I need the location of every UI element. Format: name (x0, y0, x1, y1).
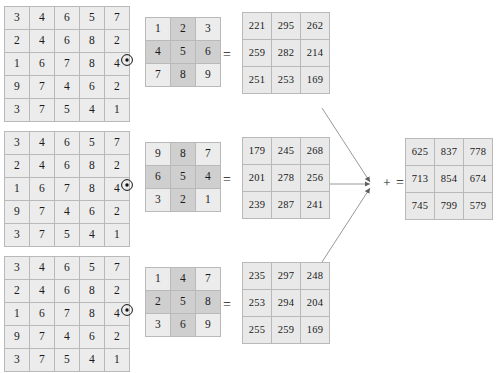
input-matrix-1: 3465724682167849746237541 (4, 6, 130, 122)
matrix-cell: 4 (80, 349, 104, 371)
matrix-cell: 4 (55, 201, 79, 223)
matrix-cell: 214 (301, 40, 329, 66)
matrix-cell: 1 (146, 18, 170, 40)
equals-sign-2: = (219, 172, 235, 188)
matrix-cell: 799 (435, 193, 463, 219)
matrix-cell: 4 (55, 76, 79, 98)
matrix-cell: 674 (464, 166, 492, 192)
matrix-cell: 9 (5, 76, 29, 98)
matrix-cell: 7 (196, 268, 220, 290)
matrix-cell: 1 (5, 303, 29, 325)
matrix-cell: 2 (105, 201, 129, 223)
matrix-cell: 8 (80, 155, 104, 177)
matrix-cell: 3 (5, 224, 29, 246)
matrix-cell: 6 (55, 257, 79, 279)
matrix-cell: 4 (171, 268, 195, 290)
matrix-cell: 1 (5, 178, 29, 200)
matrix-cell: 3 (5, 257, 29, 279)
matrix-cell: 7 (146, 64, 170, 86)
matrix-cell: 1 (105, 99, 129, 121)
equals-sign-1: = (219, 47, 235, 63)
matrix-cell: 7 (30, 76, 54, 98)
convolution-operator-icon (119, 52, 135, 68)
matrix-cell: 3 (5, 349, 29, 371)
matrix-cell: 5 (171, 166, 195, 188)
matrix-cell: 579 (464, 193, 492, 219)
matrix-cell: 295 (272, 13, 300, 39)
matrix-cell: 204 (301, 290, 329, 316)
matrix-cell: 2 (105, 280, 129, 302)
matrix-cell: 9 (5, 326, 29, 348)
matrix-cell: 2 (171, 18, 195, 40)
kernel-matrix-3: 147258369 (145, 267, 221, 337)
matrix-cell: 1 (146, 268, 170, 290)
matrix-cell: 6 (55, 7, 79, 29)
matrix-cell: 2 (5, 155, 29, 177)
matrix-cell: 5 (55, 349, 79, 371)
matrix-cell: 5 (55, 99, 79, 121)
result-matrix-3: 235297248253294204255259169 (242, 262, 330, 344)
matrix-cell: 6 (55, 280, 79, 302)
matrix-cell: 625 (406, 139, 434, 165)
matrix-cell: 4 (146, 41, 170, 63)
convolution-operator-icon (119, 177, 135, 193)
matrix-cell: 5 (80, 132, 104, 154)
matrix-cell: 4 (196, 166, 220, 188)
matrix-cell: 2 (105, 326, 129, 348)
matrix-cell: 7 (55, 178, 79, 200)
matrix-cell: 1 (105, 224, 129, 246)
matrix-cell: 4 (80, 224, 104, 246)
matrix-cell: 4 (80, 99, 104, 121)
matrix-cell: 778 (464, 139, 492, 165)
matrix-cell: 8 (80, 303, 104, 325)
matrix-cell: 5 (80, 7, 104, 29)
matrix-cell: 1 (105, 349, 129, 371)
matrix-cell: 7 (30, 99, 54, 121)
matrix-cell: 201 (243, 165, 271, 191)
matrix-cell: 1 (5, 53, 29, 75)
matrix-cell: 241 (301, 192, 329, 218)
matrix-cell: 6 (196, 41, 220, 63)
matrix-cell: 259 (243, 40, 271, 66)
convolution-diagram: 3465724682167849746237541 123456789 = 22… (0, 0, 504, 373)
matrix-cell: 278 (272, 165, 300, 191)
matrix-cell: 3 (5, 7, 29, 29)
matrix-cell: 7 (55, 53, 79, 75)
matrix-cell: 9 (146, 143, 170, 165)
matrix-cell: 6 (80, 76, 104, 98)
matrix-cell: 8 (80, 53, 104, 75)
matrix-cell: 179 (243, 138, 271, 164)
matrix-cell: 4 (30, 7, 54, 29)
matrix-cell: 239 (243, 192, 271, 218)
result-matrix-2: 179245268201278256239287241 (242, 137, 330, 219)
input-matrix-3: 3465724682167849746237541 (4, 256, 130, 372)
kernel-matrix-2: 987654321 (145, 142, 221, 212)
matrix-cell: 3 (196, 18, 220, 40)
matrix-cell: 6 (80, 201, 104, 223)
matrix-cell: 837 (435, 139, 463, 165)
matrix-cell: 9 (196, 64, 220, 86)
matrix-cell: 7 (105, 257, 129, 279)
matrix-cell: 4 (30, 155, 54, 177)
matrix-cell: 8 (80, 280, 104, 302)
matrix-cell: 3 (146, 314, 170, 336)
matrix-cell: 248 (301, 263, 329, 289)
matrix-cell: 2 (105, 76, 129, 98)
matrix-cell: 7 (105, 7, 129, 29)
matrix-cell: 2 (146, 291, 170, 313)
matrix-cell: 282 (272, 40, 300, 66)
matrix-cell: 262 (301, 13, 329, 39)
matrix-cell: 3 (5, 132, 29, 154)
matrix-cell: 235 (243, 263, 271, 289)
matrix-cell: 251 (243, 67, 271, 93)
matrix-cell: 294 (272, 290, 300, 316)
matrix-cell: 5 (80, 257, 104, 279)
matrix-cell: 8 (80, 30, 104, 52)
matrix-cell: 6 (30, 178, 54, 200)
matrix-cell: 169 (301, 317, 329, 343)
matrix-cell: 4 (30, 257, 54, 279)
matrix-cell: 259 (272, 317, 300, 343)
matrix-cell: 8 (196, 291, 220, 313)
matrix-cell: 2 (5, 280, 29, 302)
matrix-cell: 287 (272, 192, 300, 218)
